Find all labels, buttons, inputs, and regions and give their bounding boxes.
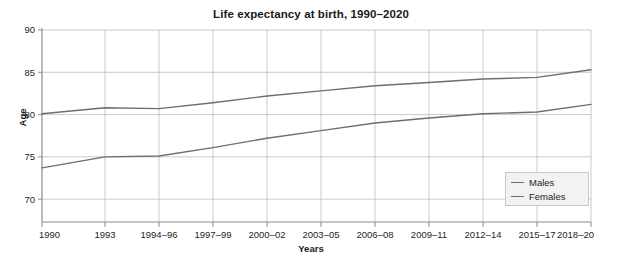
svg-text:70: 70 bbox=[24, 194, 35, 205]
svg-text:1990: 1990 bbox=[39, 229, 60, 240]
legend-label: Males bbox=[529, 177, 554, 188]
x-axis-title: Years bbox=[0, 243, 622, 254]
chart-legend: Males Females bbox=[505, 172, 589, 206]
svg-text:2015–17: 2015–17 bbox=[519, 229, 556, 240]
svg-text:75: 75 bbox=[24, 151, 35, 162]
svg-text:90: 90 bbox=[24, 24, 35, 35]
data-series bbox=[42, 70, 591, 168]
svg-text:2018–20: 2018–20 bbox=[557, 229, 594, 240]
svg-text:1993: 1993 bbox=[94, 229, 115, 240]
svg-text:2003–05: 2003–05 bbox=[303, 229, 340, 240]
legend-item-females: Females bbox=[511, 190, 588, 203]
legend-line-icon bbox=[511, 182, 524, 183]
svg-text:1997–99: 1997–99 bbox=[195, 229, 232, 240]
y-tick-labels: 7075808590 bbox=[24, 24, 35, 204]
svg-text:2012–14: 2012–14 bbox=[465, 229, 502, 240]
legend-line-icon bbox=[511, 196, 524, 197]
svg-text:85: 85 bbox=[24, 67, 35, 78]
svg-text:1994–96: 1994–96 bbox=[141, 229, 178, 240]
legend-item-males: Males bbox=[511, 176, 588, 189]
legend-label: Females bbox=[529, 191, 565, 202]
svg-text:2000–02: 2000–02 bbox=[249, 229, 286, 240]
svg-text:2009–11: 2009–11 bbox=[411, 229, 447, 240]
svg-text:2006–08: 2006–08 bbox=[357, 229, 394, 240]
svg-text:80: 80 bbox=[24, 109, 35, 120]
chart-figure: Life expectancy at birth, 1990–2020 Age … bbox=[0, 0, 622, 265]
line-chart-plot: 7075808590 199019931994–961997–992000–02… bbox=[0, 0, 622, 265]
x-tick-labels: 199019931994–961997–992000–022003–052006… bbox=[39, 229, 594, 240]
